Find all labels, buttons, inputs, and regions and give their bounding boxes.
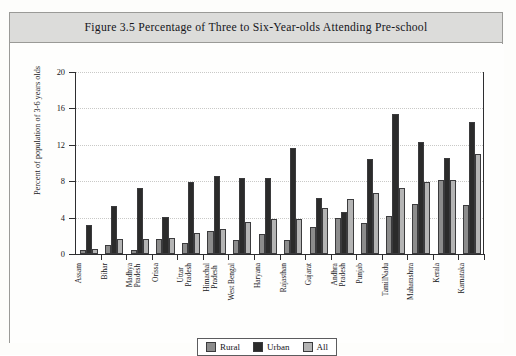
legend-label-rural: Rural [220,342,240,352]
bar-group [102,72,128,254]
legend-swatch-urban [253,342,263,352]
bar-group [383,72,409,254]
x-tick-label: TamilNadu [382,263,408,296]
legend-label-urban: Urban [267,342,290,352]
bar-group [357,72,383,254]
x-tick-mark [152,254,153,260]
y-tick-label: 12 [43,140,65,149]
bar-group [153,72,179,254]
x-tick-label: Uttar Pradesh [177,263,203,286]
bar-all [322,208,328,254]
legend-label-all: All [317,342,329,352]
x-tick-label: Andhra Pradesh [331,263,357,286]
bar-group [306,72,332,254]
bar-all [169,238,175,254]
x-tick-mark [407,254,408,260]
bar-all [296,219,302,254]
x-tick-label: Punjab [356,263,382,284]
x-tick-mark [305,254,306,260]
x-tick-label: Assam [75,263,101,283]
bar-group [459,72,485,254]
x-tick-mark [382,254,383,260]
x-tick-label: West Bengal [228,263,254,300]
bar-group [332,72,358,254]
bar-all [373,193,379,254]
chart-body: Percent of population of 3-6 years olds … [10,44,504,343]
bar-group [408,72,434,254]
figure-title: Figure 3.5 Percentage of Three to Six-Ye… [85,21,428,34]
x-tick-mark [458,254,459,260]
x-tick-label: Rajasthan [280,263,306,292]
y-tick-label: 4 [43,213,65,222]
bar-all [424,182,430,254]
legend-item-urban: Urban [253,342,290,352]
x-tick-mark [433,254,434,260]
figure-title-band: Figure 3.5 Percentage of Three to Six-Ye… [10,13,502,43]
legend-item-rural: Rural [206,342,240,352]
legend-swatch-all [303,342,313,352]
bar-group [127,72,153,254]
x-tick-mark [126,254,127,260]
x-tick-mark [280,254,281,260]
bar-all [245,222,251,254]
bar-all [450,180,456,254]
y-axis-title: Percent of population of 3-6 years olds [33,46,42,216]
bar-all [271,219,277,254]
x-tick-mark [177,254,178,260]
legend-swatch-rural [206,342,216,352]
x-tick-mark [356,254,357,260]
x-tick-label: Bihar [101,263,127,279]
x-tick-mark [484,254,485,260]
x-tick-label: Madhya Pradesh [126,263,152,287]
bar-group [255,72,281,254]
bar-all [475,154,481,254]
figure-frame: Figure 3.5 Percentage of Three to Six-Ye… [9,12,503,343]
x-tick-mark [101,254,102,260]
x-tick-label: Kerala [433,263,459,283]
bar-all [220,229,226,254]
y-tick-label: 8 [43,177,65,186]
bar-all [117,239,123,254]
chart-legend: Rural Urban All [197,338,337,356]
bar-group [76,72,102,254]
y-tick-label: 16 [43,104,65,113]
x-tick-label: Orissa [152,263,178,282]
bar-group [281,72,307,254]
bar-all [347,199,353,254]
bar-all [399,188,405,254]
legend-item-all: All [303,342,329,352]
x-tick-label: Karnataka [458,263,484,293]
bar-group [229,72,255,254]
x-tick-mark [331,254,332,260]
bar-all [194,233,200,254]
bar-group [204,72,230,254]
bar-group [178,72,204,254]
plot-area [75,72,484,254]
x-tick-mark [254,254,255,260]
bar-group [434,72,460,254]
x-tick-label: Haryana [254,263,280,288]
x-tick-label: Himachal Pradesh [203,263,229,292]
x-tick-label: Gujarat [305,263,331,285]
bar-all [143,239,149,254]
x-tick-label: Maharashtra [407,263,433,300]
x-tick-mark [228,254,229,260]
x-tick-mark [203,254,204,260]
y-tick-label: 20 [43,68,65,77]
y-tick-label: 0 [43,250,65,259]
